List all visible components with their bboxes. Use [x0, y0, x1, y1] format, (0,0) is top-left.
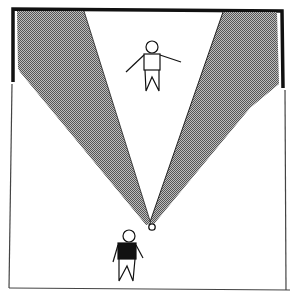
- left-view-cone: [17, 11, 151, 225]
- room-outline: [9, 84, 290, 290]
- observed-person-figure: [126, 41, 181, 91]
- field-of-view-diagram: [0, 0, 297, 304]
- viewer-figure: [113, 230, 143, 281]
- right-view-cone: [150, 12, 279, 224]
- viewpoint-marker: [149, 224, 155, 230]
